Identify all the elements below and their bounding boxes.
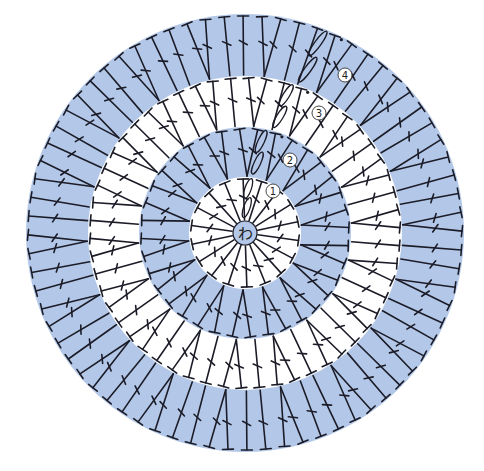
round-label-4-text: 4 [342, 70, 348, 81]
round-label-3: 3 [312, 106, 326, 120]
round-label-1: 1 [266, 184, 280, 198]
crochet-diagram: わ 1 2 3 4 [0, 0, 484, 471]
round-label-2: 2 [283, 153, 297, 167]
round-label-3-text: 3 [316, 108, 322, 119]
round-label-2-text: 2 [287, 155, 293, 166]
round-label-4: 4 [338, 68, 352, 82]
magic-ring: わ [233, 221, 257, 245]
magic-ring-label: わ [238, 225, 253, 243]
round-label-1-text: 1 [270, 186, 276, 197]
